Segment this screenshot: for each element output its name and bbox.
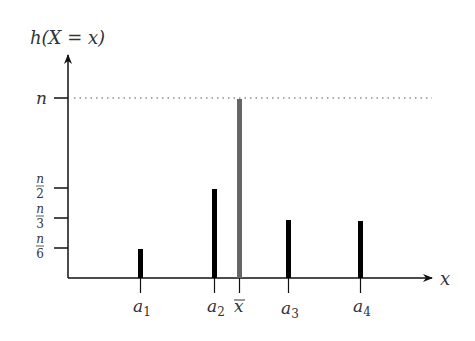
xtick-a4: a4 [353, 296, 371, 319]
x-tick-labels: a1 a2 x a3 a4 [133, 296, 371, 321]
xtick-a1: a1 [133, 296, 151, 319]
ytick-third-den: 3 [36, 217, 44, 231]
bar-a2 [212, 189, 217, 278]
y-axis-label: h(X = x) [30, 27, 105, 48]
bar-a3 [286, 220, 291, 278]
bar-a4 [358, 221, 363, 278]
x-axis-label: x [440, 268, 450, 289]
bar-xbar [237, 99, 242, 278]
bar-a1 [138, 249, 143, 278]
ytick-half-den: 2 [36, 187, 44, 201]
xtick-xbar: x [234, 296, 244, 316]
ytick-sixth-num: n [36, 232, 44, 246]
y-ticks: n n 2 n 3 n 6 [36, 88, 68, 261]
ytick-third-num: n [36, 202, 44, 216]
chart-canvas: h(X = x) x n n 2 n 3 n 6 [0, 0, 475, 341]
xtick-a2: a2 [207, 296, 225, 319]
ytick-half-num: n [36, 172, 44, 186]
xtick-a3: a3 [281, 298, 299, 321]
ytick-sixth-den: 6 [36, 247, 44, 261]
ytick-n: n [36, 88, 47, 108]
bars [138, 99, 363, 278]
x-ticks [141, 278, 361, 293]
